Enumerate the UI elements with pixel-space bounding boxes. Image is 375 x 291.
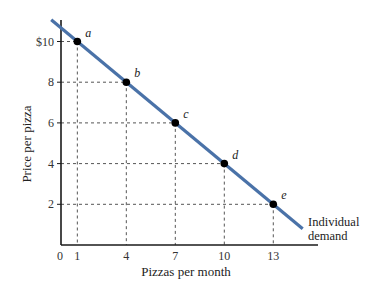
y-tick-label: 8	[48, 75, 54, 89]
y-tick-label: $10	[36, 35, 54, 49]
x-tick-label: 0	[57, 249, 63, 263]
point-label-d: d	[232, 148, 239, 162]
curve-label-line1: Individual	[308, 215, 360, 229]
point-label-e: e	[281, 188, 287, 202]
y-tick-label: 2	[48, 197, 54, 211]
x-tick-label: 4	[123, 249, 129, 263]
data-point-e	[269, 201, 277, 209]
x-tick-label: 7	[172, 249, 178, 263]
data-point-c	[172, 119, 180, 127]
x-axis-label: Pizzas per month	[141, 264, 231, 279]
x-tick-label: 1	[74, 249, 80, 263]
point-label-c: c	[183, 107, 189, 121]
curve-label-line2: demand	[308, 229, 348, 243]
data-point-d	[221, 160, 229, 168]
point-label-a: a	[85, 26, 91, 40]
demand-points: abcde	[74, 26, 288, 209]
x-tick-label: 10	[218, 249, 230, 263]
data-point-a	[74, 38, 82, 46]
dashed-guide-lines	[61, 42, 273, 246]
y-tick-label: 6	[48, 116, 54, 130]
x-tick-labels: 01471013	[57, 249, 279, 263]
data-point-b	[123, 78, 131, 86]
y-axis-label: Price per pizza	[19, 105, 34, 182]
x-tick-label: 13	[267, 249, 279, 263]
demand-chart: 2468$10 01471013 abcde Individual demand…	[0, 0, 375, 291]
y-tick-labels: 2468$10	[36, 35, 61, 212]
y-tick-label: 4	[48, 157, 54, 171]
point-label-b: b	[134, 66, 140, 80]
